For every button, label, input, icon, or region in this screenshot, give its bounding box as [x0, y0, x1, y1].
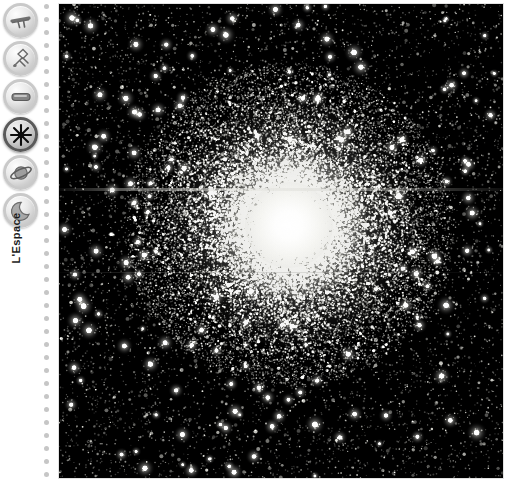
divider-dot: [44, 420, 49, 425]
dotted-divider: [42, 0, 52, 488]
divider-dot: [44, 173, 49, 178]
divider-dot: [44, 303, 49, 308]
sidebar-item-planete[interactable]: [3, 155, 38, 190]
capsule-icon: [9, 85, 33, 109]
divider-dot: [44, 4, 49, 9]
divider-dot: [44, 472, 49, 477]
image-viewer[interactable]: [58, 3, 504, 479]
divider-dot: [44, 43, 49, 48]
ringed-planet-icon: [9, 161, 33, 185]
app-root: L'Espace: [0, 0, 514, 488]
divider-dot: [44, 329, 49, 334]
divider-dot: [44, 108, 49, 113]
sidebar-item-capsule[interactable]: [3, 79, 38, 114]
divider-dot: [44, 368, 49, 373]
sidebar-category-label: L'Espace: [10, 198, 30, 278]
divider-dot: [44, 186, 49, 191]
sidebar-item-telescope[interactable]: [3, 3, 38, 38]
divider-dot: [44, 134, 49, 139]
divider-dot: [44, 251, 49, 256]
divider-dot: [44, 199, 49, 204]
divider-dot: [44, 56, 49, 61]
starfield-background: [59, 4, 503, 478]
star-cluster-image: [59, 4, 503, 478]
divider-dot: [44, 394, 49, 399]
divider-dot: [44, 212, 49, 217]
divider-dot: [44, 290, 49, 295]
sidebar-item-etoiles[interactable]: [3, 117, 38, 152]
divider-dot: [44, 264, 49, 269]
divider-dot: [44, 238, 49, 243]
divider-dot: [44, 30, 49, 35]
divider-dot: [44, 69, 49, 74]
divider-dot: [44, 17, 49, 22]
divider-dot: [44, 82, 49, 87]
divider-dot: [44, 446, 49, 451]
divider-dot: [44, 147, 49, 152]
star-burst-icon: [9, 123, 33, 147]
divider-dot: [44, 433, 49, 438]
divider-dot: [44, 342, 49, 347]
divider-dot: [44, 459, 49, 464]
sidebar: L'Espace: [0, 0, 44, 488]
divider-dot: [44, 277, 49, 282]
divider-dot: [44, 316, 49, 321]
satellite-icon: [9, 47, 33, 71]
divider-dot: [44, 160, 49, 165]
divider-dot: [44, 381, 49, 386]
telescope-icon: [9, 9, 33, 33]
divider-dot: [44, 121, 49, 126]
divider-dot: [44, 355, 49, 360]
divider-dot: [44, 95, 49, 100]
divider-dot: [44, 407, 49, 412]
divider-dot: [44, 225, 49, 230]
sidebar-item-satellite[interactable]: [3, 41, 38, 76]
